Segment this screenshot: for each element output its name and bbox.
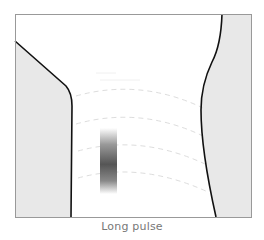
right-tissue-region [201,14,252,217]
dashed-wave-arcs [76,89,208,192]
long-pulse-diagram [0,0,264,240]
pulse-beam [100,128,117,194]
left-tissue-region [15,41,72,217]
diagram-caption: Long pulse [0,220,264,233]
faint-lines [96,73,140,80]
